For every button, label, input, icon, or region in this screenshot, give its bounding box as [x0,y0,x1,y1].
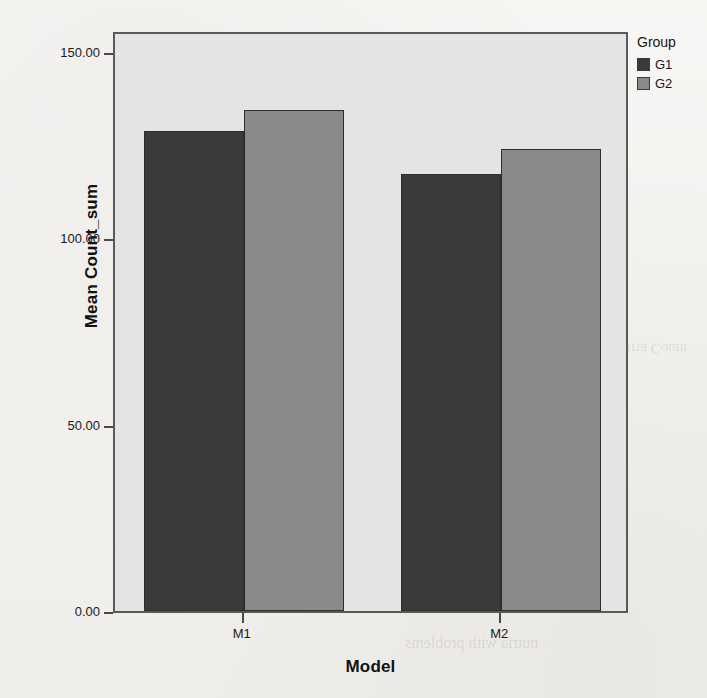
bar-M1-G1 [144,131,244,611]
x-tick-label-M2: M2 [459,626,539,641]
bar-M2-G2 [501,149,601,611]
legend: Group G1G2 [637,34,707,95]
legend-label: G1 [655,57,672,72]
y-tick-label: 50.00 [24,418,100,433]
bar-M2-G1 [401,174,501,611]
plot-area [113,32,628,613]
legend-label: G2 [655,76,672,91]
y-tick-label: 150.00 [24,45,100,60]
bars-container [115,34,626,611]
legend-item-G2: G2 [637,76,707,91]
legend-swatch-G2 [637,77,650,90]
legend-title: Group [637,34,707,50]
y-tick-mark [104,612,113,614]
legend-swatch-G1 [637,58,650,71]
y-axis-title: Mean Count_sum [82,156,102,356]
x-axis-title: Model [113,657,628,677]
legend-item-G1: G1 [637,57,707,72]
bar-chart: Mean Count_sum 0.0050.00100.00150.00 M1M… [0,0,707,698]
legend-items: G1G2 [637,57,707,91]
x-tick-mark-0 [242,613,244,623]
x-tick-label-M1: M1 [202,626,282,641]
y-tick-label: 100.00 [24,231,100,246]
y-tick-label: 0.00 [24,604,100,619]
bar-M1-G2 [244,110,344,611]
y-tick-mark [104,239,113,241]
y-tick-mark [104,53,113,55]
y-tick-mark [104,426,113,428]
x-tick-mark-1 [499,613,501,623]
